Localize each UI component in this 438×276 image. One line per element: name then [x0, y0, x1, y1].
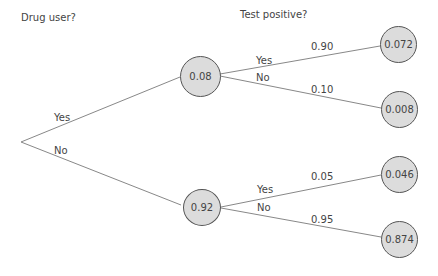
node-drug-no: 0.92 — [183, 189, 221, 226]
leaf-0-008: 0.008 — [381, 91, 418, 128]
branch-yes-test-2 — [221, 175, 381, 207]
leaf-0-874: 0.874 — [381, 221, 418, 258]
label-yes-drug: Yes — [54, 112, 70, 123]
label-yes-test-1: Yes — [256, 55, 272, 66]
node-drug-yes: 0.08 — [180, 56, 221, 97]
prob-yes-test-2: 0.05 — [311, 171, 333, 182]
leaf-0-046: 0.046 — [381, 156, 418, 193]
leaf-0-072: 0.072 — [380, 26, 417, 63]
branch-no-test-2 — [221, 208, 381, 237]
branch-no-drug — [21, 142, 181, 205]
branch-no-test-1 — [220, 76, 381, 108]
tree-lines — [0, 0, 438, 276]
label-no-drug: No — [54, 145, 68, 156]
prob-no-test-2: 0.95 — [311, 214, 333, 225]
label-no-test-2: No — [257, 202, 271, 213]
header-drug-user: Drug user? — [21, 12, 76, 23]
prob-no-test-1: 0.10 — [311, 84, 333, 95]
header-test-positive: Test positive? — [240, 9, 307, 20]
label-no-test-1: No — [256, 72, 270, 83]
label-yes-test-2: Yes — [257, 184, 273, 195]
prob-yes-test-1: 0.90 — [311, 41, 333, 52]
branch-yes-drug — [21, 77, 180, 142]
branch-yes-test-1 — [220, 46, 380, 74]
